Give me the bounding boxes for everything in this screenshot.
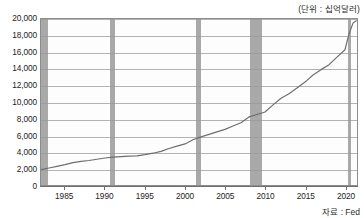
y-axis-tick-label: 16,000 (1, 47, 37, 57)
x-axis-tick-label: 2010 (256, 191, 274, 201)
chart-source-note: 자료 : Fed (322, 205, 360, 217)
y-axis-tick-label: 6,000 (1, 131, 37, 141)
y-axis-tick-label: 10,000 (1, 97, 37, 107)
y-axis-tick-label: 18,000 (1, 30, 37, 40)
x-axis-tick-mark (265, 186, 266, 190)
x-axis-tick-mark (225, 186, 226, 190)
x-axis-tick-mark (104, 186, 105, 190)
x-axis-tick-mark (346, 186, 347, 190)
y-axis-tick-label: 14,000 (1, 63, 37, 73)
x-axis-tick-label: 2020 (337, 191, 355, 201)
x-axis-tick-label: 2000 (176, 191, 194, 201)
chart-figure: (단위 : 십억달러) 20,00018,00016,00014,00012,0… (0, 0, 364, 218)
series-line (41, 21, 356, 170)
x-axis-tick-label: 1990 (95, 191, 113, 201)
series-group (41, 19, 357, 185)
x-axis-tick-mark (185, 186, 186, 190)
y-axis-tick-label: 8,000 (1, 114, 37, 124)
x-axis-tick-label: 1995 (136, 191, 154, 201)
x-axis-tick-mark (306, 186, 307, 190)
plot-wrapper (40, 18, 358, 186)
x-axis-tick-mark (64, 186, 65, 190)
y-axis-tick-label: 4,000 (1, 147, 37, 157)
y-axis-tick-label: 12,000 (1, 80, 37, 90)
y-axis-tick-label: 2,000 (1, 164, 37, 174)
x-axis-tick-label: 2005 (216, 191, 234, 201)
x-axis: 19851990199520002005201020152020 (40, 186, 358, 208)
y-axis-tick-label: 0 (1, 181, 37, 191)
plot-area (40, 18, 358, 186)
chart-unit-note: (단위 : 십억달러) (298, 2, 360, 14)
x-axis-tick-mark (145, 186, 146, 190)
y-axis-tick-label: 20,000 (1, 13, 37, 23)
x-axis-tick-label: 1985 (55, 191, 73, 201)
x-axis-tick-label: 2015 (297, 191, 315, 201)
y-axis: 20,00018,00016,00014,00012,00010,0008,00… (0, 18, 37, 186)
